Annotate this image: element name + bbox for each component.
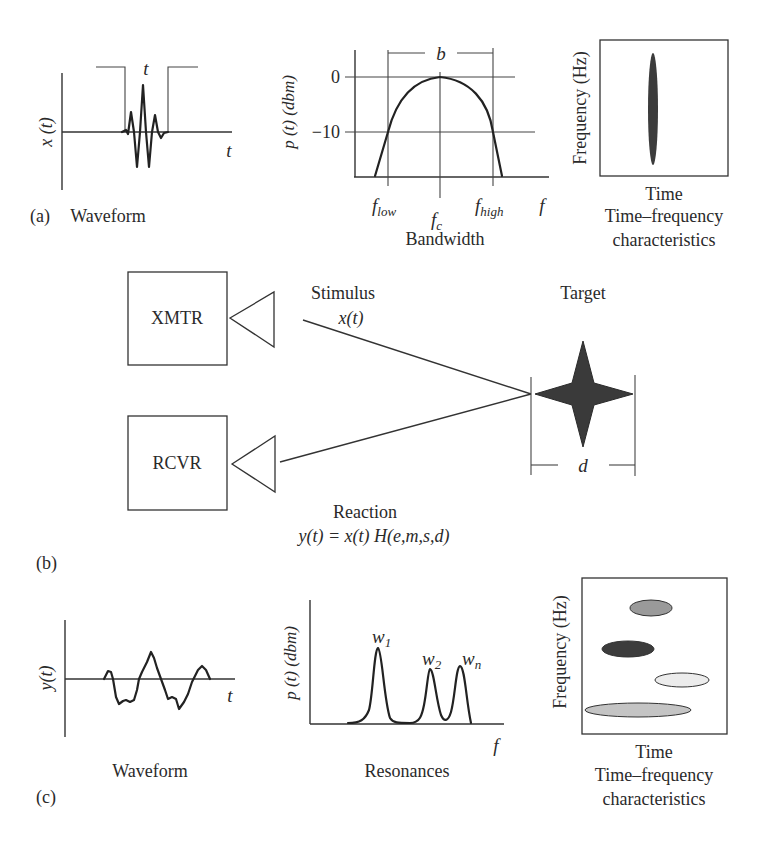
panel-a-waveform-plot: t t x (t) Waveform: [36, 58, 232, 226]
panel-a-time-frequency-plot: Frequency (Hz) Time Time–frequency chara…: [570, 40, 728, 250]
tf-ellipse-1: [630, 600, 672, 616]
y-axis-label: Frequency (Hz): [550, 595, 571, 708]
pulse-bracket-left: [96, 67, 125, 132]
y-axis-label: x (t): [36, 117, 57, 147]
x-axis-label: t: [226, 140, 232, 161]
caption-line-1: Time–frequency: [595, 765, 713, 785]
transmitter-label: XMTR: [151, 308, 203, 328]
y-axis-label: y(t): [36, 666, 57, 693]
reaction-label: Reaction: [333, 502, 397, 522]
panel-c-time-frequency-plot: Frequency (Hz) Time Time–frequency chara…: [550, 578, 727, 809]
receiver-label: RCVR: [152, 453, 201, 473]
tick-0: 0: [331, 67, 340, 87]
transmit-antenna-icon: [230, 292, 274, 347]
pulse-width-label: t: [143, 58, 149, 79]
peak-label-w2: w2: [422, 648, 442, 672]
caption-line-1: Time–frequency: [605, 206, 723, 226]
bandwidth-curve: [375, 77, 502, 176]
y-axis-label: Frequency (Hz): [570, 51, 591, 164]
tf-frame: [600, 40, 728, 176]
pulse-waveform: [122, 85, 168, 167]
f-high-label: fhigh: [475, 195, 503, 219]
reaction-path: [280, 394, 531, 462]
target-size-label: d: [578, 455, 588, 476]
x-axis-label: Time: [635, 742, 672, 762]
x-axis-label: Time: [645, 184, 682, 204]
tick-minus10: −10: [312, 122, 340, 142]
stimulus-label: Stimulus: [311, 283, 375, 303]
x-axis-label: t: [227, 685, 233, 706]
reaction-expression: y(t) = x(t) H(e,m,s,d): [296, 526, 449, 547]
panel-tag-b: (b): [36, 553, 57, 574]
receive-antenna-icon: [232, 436, 275, 492]
x-axis-label: f: [539, 195, 547, 216]
tf-ellipse-4: [585, 703, 691, 717]
reaction-waveform: [104, 652, 210, 709]
panel-a: t t x (t) Waveform (a) b 0 −10 p (t) (db…: [30, 40, 728, 250]
y-axis-label: p (t) (dbm): [279, 75, 298, 150]
bandwidth-label: b: [436, 43, 446, 64]
radar-target-response-figure: t t x (t) Waveform (a) b 0 −10 p (t) (db…: [0, 0, 779, 854]
tf-ellipse-2: [602, 641, 654, 657]
panel-a-bandwidth-plot: b 0 −10 p (t) (dbm) flow fc fhigh f Band…: [279, 43, 549, 249]
y-axis-label: p (t) (dbm): [281, 626, 300, 701]
panel-tag-c: (c): [36, 787, 56, 808]
panel-c-waveform-plot: t y(t) Waveform: [36, 620, 235, 781]
caption-bandwidth: Bandwidth: [406, 229, 485, 249]
panel-c: t y(t) Waveform (c) w1 w2 wn f p (t) (db…: [36, 578, 727, 809]
pulse-bracket-right: [168, 67, 198, 132]
peak-label-wn: wn: [462, 648, 481, 672]
tf-ellipse-3: [655, 673, 709, 687]
caption-waveform: Waveform: [70, 206, 146, 226]
target-label: Target: [560, 283, 605, 303]
stimulus-path: [303, 320, 531, 394]
peak-label-w1: w1: [372, 626, 391, 650]
stimulus-expression: x(t): [338, 308, 364, 329]
caption-waveform: Waveform: [112, 761, 188, 781]
caption-line-2: characteristics: [613, 230, 716, 250]
tf-ellipse-impulse: [648, 53, 658, 165]
panel-b: XMTR RCVR Stimulus x(t) Target d Reactio…: [36, 272, 635, 574]
target-star-icon: [535, 341, 633, 447]
panel-tag-a: (a): [30, 206, 50, 227]
panel-c-resonances-plot: w1 w2 wn f p (t) (dbm) Resonances: [281, 600, 504, 781]
f-low-label: flow: [372, 195, 396, 219]
caption-line-2: characteristics: [603, 789, 706, 809]
x-axis-label: f: [493, 735, 501, 756]
caption-resonances: Resonances: [365, 761, 450, 781]
resonance-spectrum: [348, 648, 471, 723]
